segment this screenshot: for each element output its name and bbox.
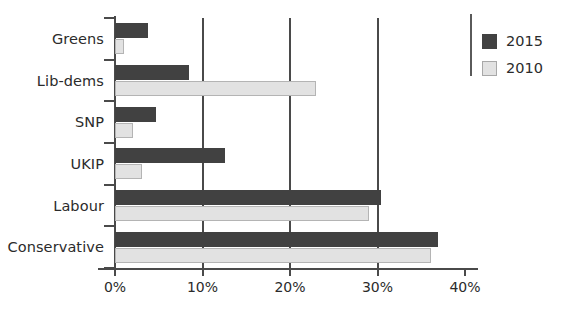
bar-conservative-2015 [115,232,438,247]
legend-label-2010: 2010 [506,61,543,76]
y-axis-label-conservative: Conservative [0,240,104,255]
x-tick-40 [464,268,466,276]
bar-labour-2010 [115,206,369,221]
gridline-10 [202,18,204,268]
x-tick-label-10: 10% [187,279,218,295]
bar-greens-2015 [115,23,148,38]
bar-libdems-2015 [115,65,189,80]
y-axis-label-libdems: Lib-dems [0,74,104,89]
bar-snp-2015 [115,107,156,122]
bar-ukip-2010 [115,164,142,179]
legend-item-2015: 2015 [482,34,543,49]
gridline-30 [377,18,379,268]
legend-item-2010: 2010 [482,61,543,76]
y-axis-labels: Greens Lib-dems SNP UKIP Labour Conserva… [0,0,104,315]
bar-conservative-2010 [115,248,431,263]
x-tick-label-30: 30% [362,279,393,295]
legend-swatch-2010-icon [482,61,497,76]
y-tick-2 [104,100,115,102]
x-tick-20 [289,268,291,276]
y-tick-4 [104,184,115,186]
gridline-20 [289,18,291,268]
x-tick-label-20: 20% [274,279,305,295]
y-tick-3 [104,142,115,144]
y-axis-label-greens: Greens [0,32,104,47]
x-tick-30 [377,268,379,276]
plot-area [115,18,465,268]
legend-label-2015: 2015 [506,34,543,49]
bar-chart: Greens Lib-dems SNP UKIP Labour Conserva… [0,0,562,315]
y-axis-label-snp: SNP [0,115,104,130]
bar-labour-2015 [115,190,381,205]
bar-ukip-2015 [115,148,225,163]
x-tick-label-0: 0% [104,279,126,295]
x-tick-10 [202,268,204,276]
bar-libdems-2010 [115,81,316,96]
y-tick-1 [104,59,115,61]
x-axis-line [98,268,478,270]
y-tick-5 [104,225,115,227]
bar-greens-2010 [115,39,124,54]
bar-snp-2010 [115,123,133,138]
y-tick-0 [104,17,115,19]
x-tick-0 [114,268,116,276]
y-axis-label-ukip: UKIP [0,157,104,172]
x-tick-label-40: 40% [449,279,480,295]
legend-swatch-2015-icon [482,34,497,49]
y-axis-label-labour: Labour [0,199,104,214]
chart-legend: 2015 2010 [470,18,562,78]
